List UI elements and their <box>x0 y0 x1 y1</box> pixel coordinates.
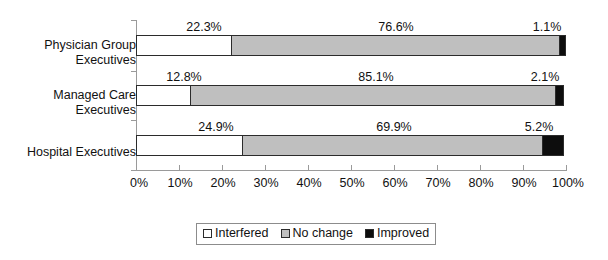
bar-segment-interfered <box>136 135 243 156</box>
value-label-interfered: 22.3% <box>186 20 221 34</box>
value-label-improved: 2.1% <box>531 70 560 84</box>
bar-segment-no-change <box>231 35 560 56</box>
value-axis-label-10: 10% <box>167 176 192 191</box>
bar-segment-no-change <box>190 85 556 106</box>
value-axis-tick <box>222 165 223 171</box>
legend-item-no-change[interactable]: No change <box>281 226 353 241</box>
value-axis-label-50: 50% <box>339 176 364 191</box>
stacked-bar-chart: Physician Group Executives Managed Care … <box>0 0 608 260</box>
value-axis-tick <box>265 165 266 171</box>
value-axis-tick <box>523 165 524 171</box>
value-axis-tick <box>179 165 180 171</box>
value-axis-tick <box>308 165 309 171</box>
bar-row-hospital-executives <box>136 135 564 156</box>
bar-segment-improved <box>559 35 566 56</box>
value-axis-tick <box>480 165 481 171</box>
legend-label-no-change: No change <box>293 226 353 241</box>
value-label-improved: 5.2% <box>525 120 554 134</box>
bar-segment-interfered <box>136 35 232 56</box>
value-axis-label-80: 80% <box>468 176 493 191</box>
bar-segment-improved <box>555 85 564 106</box>
plot-area: 22.3% 76.6% 1.1% 12.8% 85.1% 2.1% 24.9% … <box>136 18 566 170</box>
category-label-managed-care-executives: Managed Care Executives <box>0 88 136 118</box>
category-label-physician-group-executives: Physician Group Executives <box>0 38 136 68</box>
legend-swatch-interfered-icon <box>203 229 212 238</box>
value-axis-label-70: 70% <box>425 176 450 191</box>
value-axis-tick <box>351 165 352 171</box>
value-axis-tick <box>566 165 567 171</box>
legend-item-interfered[interactable]: Interfered <box>203 226 269 241</box>
legend-label-improved: Improved <box>377 226 429 241</box>
value-axis-tick <box>437 165 438 171</box>
value-axis-label-40: 40% <box>296 176 321 191</box>
legend-swatch-no-change-icon <box>281 229 290 238</box>
value-label-no-change: 85.1% <box>358 70 393 84</box>
category-label-hospital-executives: Hospital Executives <box>0 145 136 160</box>
value-axis-label-0: 0% <box>130 176 148 191</box>
value-axis-label-90: 90% <box>511 176 536 191</box>
value-axis-label-60: 60% <box>382 176 407 191</box>
bar-segment-no-change <box>242 135 543 156</box>
bar-segment-interfered <box>136 85 191 106</box>
chart-legend: Interfered No change Improved <box>196 223 436 245</box>
value-label-interfered: 24.9% <box>198 120 233 134</box>
value-axis-label-100: 100% <box>552 176 584 191</box>
value-label-no-change: 76.6% <box>378 20 413 34</box>
value-axis-label-20: 20% <box>210 176 235 191</box>
value-label-improved: 1.1% <box>533 20 562 34</box>
bar-segment-improved <box>542 135 564 156</box>
value-axis-label-30: 30% <box>253 176 278 191</box>
value-label-no-change: 69.9% <box>376 120 411 134</box>
value-label-interfered: 12.8% <box>166 70 201 84</box>
legend-item-improved[interactable]: Improved <box>365 226 429 241</box>
legend-label-interfered: Interfered <box>215 226 269 241</box>
value-axis-tick <box>394 165 395 171</box>
bar-row-physician-group-executives <box>136 35 566 56</box>
legend-swatch-improved-icon <box>365 229 374 238</box>
value-axis-tick <box>136 165 137 171</box>
bar-row-managed-care-executives <box>136 85 564 106</box>
